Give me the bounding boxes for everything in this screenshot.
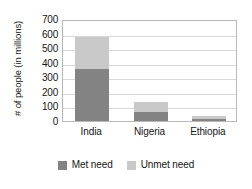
legend-swatch-icon <box>58 161 67 170</box>
bar-chart: # of people (in millions) 70060050040030… <box>0 0 252 189</box>
x-axis-tick-labels: IndiaNigeriaEthiopia <box>62 126 237 140</box>
bars-layer <box>63 21 236 121</box>
chart-legend: Met needUnmet need <box>0 160 252 170</box>
legend-item-unmet-need: Unmet need <box>127 160 194 170</box>
bar-nigeria <box>134 102 168 121</box>
plot-area <box>62 20 237 122</box>
legend-swatch-icon <box>127 161 136 170</box>
bar-segment-unmet-need <box>75 37 109 70</box>
bar-ethiopia <box>192 116 226 121</box>
bar-india <box>75 37 109 122</box>
y-tick-label: 300 <box>24 73 58 83</box>
legend-item-met-need: Met need <box>58 160 113 170</box>
bar-segment-met-need <box>134 112 168 121</box>
bar-segment-met-need <box>192 119 226 121</box>
y-axis-title: # of people (in millions) <box>12 13 23 125</box>
y-axis-tick-labels: 7006005004003002001000 <box>24 20 58 122</box>
bar-segment-unmet-need <box>134 102 168 112</box>
y-tick-label: 700 <box>24 15 58 25</box>
y-tick-label: 500 <box>24 44 58 54</box>
y-tick-label: 100 <box>24 102 58 112</box>
y-tick-label: 0 <box>24 117 58 127</box>
legend-label: Unmet need <box>141 160 194 170</box>
bar-segment-met-need <box>75 69 109 121</box>
x-tick-label-ethiopia: Ethiopia <box>173 126 243 138</box>
y-tick-label: 400 <box>24 59 58 69</box>
y-tick-label: 600 <box>24 30 58 40</box>
legend-label: Met need <box>72 160 113 170</box>
y-tick-label: 200 <box>24 88 58 98</box>
